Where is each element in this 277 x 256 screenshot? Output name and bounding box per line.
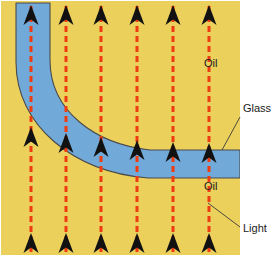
label-oil-bottom: Oil <box>204 181 217 192</box>
label-oil-top: Oil <box>204 58 217 69</box>
optics-diagram <box>0 0 277 256</box>
figure-container: Oil Glass Oil Light <box>0 0 277 256</box>
label-light: Light <box>243 223 267 234</box>
label-glass: Glass <box>243 103 271 114</box>
